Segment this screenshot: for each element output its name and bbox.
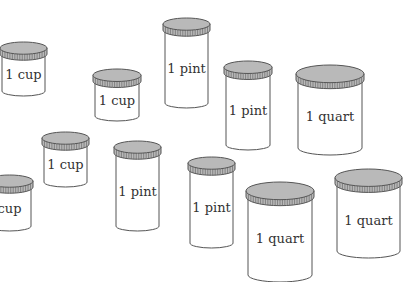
jar-label: 1 quart: [296, 109, 364, 124]
jar-label: cup: [0, 201, 33, 216]
jar-label: 1 pint: [163, 61, 210, 76]
jar-pint-4: 1 pint: [188, 157, 235, 248]
jar-label: 1 cup: [93, 93, 141, 108]
jar-label: 1 cup: [0, 67, 47, 82]
jar-pint-2: 1 pint: [224, 61, 272, 150]
jar-label: 1 quart: [246, 231, 314, 246]
jar-cup-3: 1 cup: [42, 132, 89, 187]
jar-label: 1 quart: [335, 213, 402, 228]
jar-quart-2: 1 quart: [246, 182, 314, 282]
jar-cup-1: 1 cup: [0, 42, 47, 96]
jar-pint-1: 1 pint: [163, 18, 210, 108]
jar-pint-3: 1 pint: [114, 141, 161, 231]
jar-quart-3: 1 quart: [335, 169, 402, 258]
jar-cup-4: cup: [0, 175, 33, 231]
jar-quart-1: 1 quart: [296, 65, 364, 155]
jar-label: 1 pint: [114, 184, 161, 199]
jar-label: 1 cup: [42, 157, 89, 172]
jar-label: 1 pint: [188, 200, 235, 215]
jar-cup-2: 1 cup: [93, 69, 141, 121]
jar-label: 1 pint: [224, 103, 272, 118]
